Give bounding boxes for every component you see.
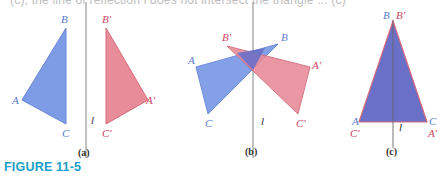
label-b-Bprime: B′ (222, 31, 232, 43)
label-c-B: B (383, 9, 390, 21)
image-triangle-a (106, 28, 148, 124)
label-b-C: C (205, 117, 213, 129)
label-c-Aprime: A′ (427, 127, 438, 139)
panel-b: A B C B′ A′ C′ l (b) (187, 2, 322, 158)
panel-a: B A C B′ A′ C′ l (a) (11, 2, 156, 159)
label-b-A: A (187, 54, 195, 66)
label-a-Bprime: B′ (102, 13, 112, 25)
label-c-Cprime: C′ (350, 127, 360, 139)
label-a-B: B (61, 13, 68, 25)
label-c-A: A (351, 115, 359, 127)
label-a-Aprime: A′ (145, 94, 156, 106)
label-b-line-l: l (261, 115, 264, 127)
original-triangle-a (22, 28, 66, 124)
reflection-figure: B A C B′ A′ C′ l (a) A B C B′ A′ C′ l (b… (0, 0, 446, 182)
label-a-A: A (11, 94, 19, 106)
figure-caption: FIGURE 11-5 (4, 160, 81, 174)
label-c-line-l: l (399, 121, 402, 133)
sublabel-a: (a) (78, 147, 90, 159)
label-c-Bprime: B′ (396, 9, 406, 21)
label-a-Cprime: C′ (102, 127, 112, 139)
label-a-line-l: l (91, 114, 94, 126)
label-b-Aprime: A′ (311, 59, 322, 71)
label-a-C: C (62, 127, 70, 139)
sublabel-b: (b) (245, 146, 257, 158)
label-b-B: B (281, 31, 288, 43)
label-b-Cprime: C′ (296, 117, 306, 129)
sublabel-c: (c) (386, 146, 397, 158)
label-c-C: C (429, 115, 437, 127)
panel-c: B B′ A C C′ A′ l (c) (350, 9, 438, 158)
